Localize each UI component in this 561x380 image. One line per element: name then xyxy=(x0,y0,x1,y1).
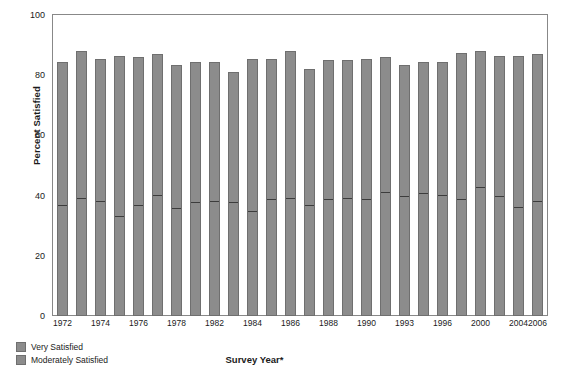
stacked-bar xyxy=(228,72,240,316)
stacked-bar xyxy=(133,57,145,316)
y-axis-tick-label: 60 xyxy=(0,130,52,140)
legend-item: Very Satisfied xyxy=(16,341,108,353)
bar-segment-divider xyxy=(400,196,410,197)
bar-column xyxy=(342,15,354,316)
y-axis: 020406080100 xyxy=(0,0,52,302)
bar-segment-divider xyxy=(248,211,258,212)
bar-column xyxy=(95,15,107,316)
bar-segment-divider xyxy=(419,193,429,194)
x-axis-tick-label: 1993 xyxy=(395,318,414,328)
x-axis-tick-label: 1996 xyxy=(433,318,452,328)
stacked-bar xyxy=(285,51,297,316)
stacked-bar xyxy=(209,62,221,316)
stacked-bar xyxy=(95,59,107,316)
bar-segment-divider xyxy=(381,192,391,193)
x-axis-tick-label: 2004 xyxy=(509,318,528,328)
bar-segment-divider xyxy=(229,202,239,203)
bar-column xyxy=(380,15,392,316)
legend-swatch-icon xyxy=(16,355,26,365)
bar-column xyxy=(304,15,316,316)
stacked-bar xyxy=(171,65,183,316)
stacked-bar xyxy=(532,54,544,316)
y-axis-tick-label: 80 xyxy=(0,70,52,80)
bar-segment-divider xyxy=(172,208,182,209)
legend-item: Moderately Satisfied xyxy=(16,354,108,366)
legend-swatch-icon xyxy=(16,342,26,352)
stacked-bar xyxy=(437,62,449,316)
bar-segment-divider xyxy=(514,207,524,208)
x-axis-tick-label: 1990 xyxy=(357,318,376,328)
y-axis-tick-label: 20 xyxy=(0,251,52,261)
stacked-bar xyxy=(361,59,373,316)
bar-segment-divider xyxy=(324,199,334,200)
bar-column xyxy=(494,15,506,316)
stacked-bar xyxy=(76,51,88,316)
stacked-bar xyxy=(266,59,278,316)
x-axis-tick-label: 2006 xyxy=(528,318,547,328)
bar-column xyxy=(418,15,430,316)
bar-column xyxy=(133,15,145,316)
bar-column xyxy=(532,15,544,316)
x-axis-tick-label: 1984 xyxy=(243,318,262,328)
stacked-bar xyxy=(342,60,354,316)
bar-segment-divider xyxy=(153,195,163,196)
stacked-bar xyxy=(399,65,411,316)
bar-segment-divider xyxy=(267,199,277,200)
bar-column xyxy=(285,15,297,316)
bar-column xyxy=(228,15,240,316)
x-axis-tick-label: 1978 xyxy=(167,318,186,328)
bar-column xyxy=(76,15,88,316)
bar-column xyxy=(209,15,221,316)
bar-segment-divider xyxy=(457,199,467,200)
bar-column xyxy=(475,15,487,316)
stacked-bar xyxy=(494,56,506,316)
stacked-bar xyxy=(513,56,525,316)
bars-layer xyxy=(53,15,547,316)
chart-container: Percent Satisfied 020406080100 197219741… xyxy=(0,0,561,380)
bar-column xyxy=(323,15,335,316)
bar-segment-divider xyxy=(77,198,87,199)
bar-segment-divider xyxy=(96,201,106,202)
bar-segment-divider xyxy=(210,201,220,202)
stacked-bar xyxy=(475,51,487,316)
stacked-bar xyxy=(380,57,392,316)
x-axis-labels: 1972197419761978198219841986198819901993… xyxy=(53,318,547,334)
bar-segment-divider xyxy=(134,205,144,206)
bar-column xyxy=(171,15,183,316)
x-axis-tick-label: 1974 xyxy=(91,318,110,328)
bar-segment-divider xyxy=(305,205,315,206)
bar-segment-divider xyxy=(438,195,448,196)
x-axis-tick-label: 1988 xyxy=(319,318,338,328)
bar-segment-divider xyxy=(286,198,296,199)
bar-column xyxy=(513,15,525,316)
y-axis-tick-label: 0 xyxy=(0,311,52,321)
bar-segment-divider xyxy=(476,187,486,188)
bar-segment-divider xyxy=(115,216,125,217)
legend-item-label: Moderately Satisfied xyxy=(31,355,108,365)
x-axis-tick-label: 1986 xyxy=(281,318,300,328)
bar-segment-divider xyxy=(533,201,543,202)
stacked-bar xyxy=(418,62,430,316)
bar-column xyxy=(152,15,164,316)
bar-column xyxy=(361,15,373,316)
stacked-bar xyxy=(57,62,69,316)
stacked-bar xyxy=(456,53,468,316)
bar-column xyxy=(190,15,202,316)
stacked-bar xyxy=(247,59,259,316)
x-axis-tick-label: 2000 xyxy=(471,318,490,328)
bar-column xyxy=(247,15,259,316)
bar-column xyxy=(266,15,278,316)
x-axis-tick-label: 1982 xyxy=(205,318,224,328)
bar-segment-divider xyxy=(191,202,201,203)
chart-legend: Very SatisfiedModerately Satisfied xyxy=(16,341,108,367)
bar-column xyxy=(456,15,468,316)
stacked-bar xyxy=(152,54,164,316)
stacked-bar xyxy=(114,56,126,316)
bar-segment-divider xyxy=(343,198,353,199)
x-axis-title-text: Survey Year* xyxy=(226,354,284,365)
stacked-bar xyxy=(190,62,202,316)
bar-column xyxy=(437,15,449,316)
bar-column xyxy=(399,15,411,316)
bar-segment-divider xyxy=(362,199,372,200)
bar-column xyxy=(114,15,126,316)
